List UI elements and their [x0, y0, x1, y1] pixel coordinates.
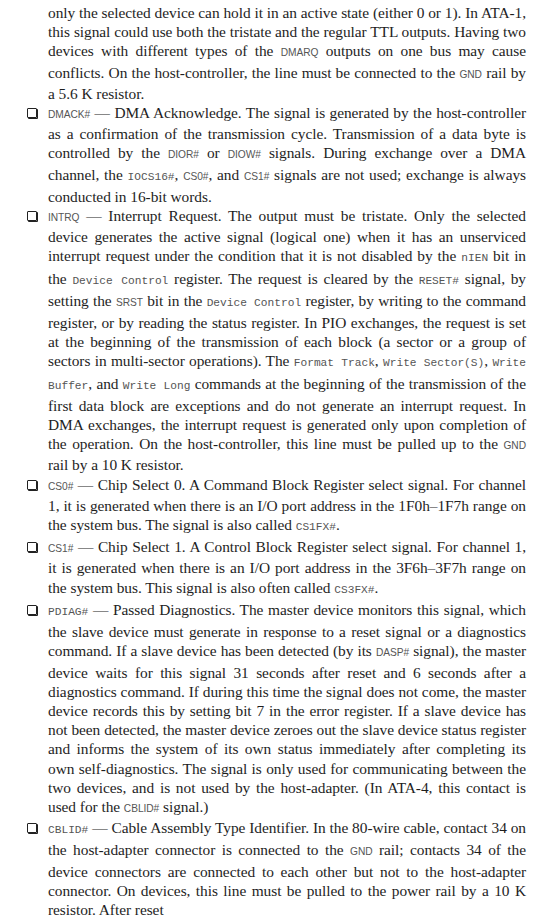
signal-name: CS0#	[48, 481, 73, 492]
signal-code: CS1FX#	[296, 521, 336, 533]
signal-name: DMACK#	[48, 109, 90, 120]
signal-code: GND	[350, 846, 373, 857]
text: rail by a 10 K resistor.	[48, 456, 184, 473]
text: register. The request is cleared by the	[168, 270, 418, 287]
checkbox-bullet-icon	[27, 823, 37, 833]
checkbox-bullet-icon	[27, 605, 37, 615]
signal-code: DIOW#	[228, 149, 261, 160]
list-item-cs0: CS0# — Chip Select 0. A Command Block Re…	[26, 475, 526, 538]
text: — Interrupt Request. The output must be …	[48, 207, 526, 264]
list-item-pdiag: PDIAG# — Passed Diagnostics. The master …	[26, 600, 526, 818]
signal-name: CS1#	[48, 543, 73, 554]
signal-code: CS1#	[244, 171, 269, 182]
document-page: only the selected device can hold it in …	[0, 0, 548, 919]
text: or	[199, 144, 228, 161]
checkbox-bullet-icon	[27, 211, 37, 221]
text: .	[375, 579, 379, 596]
intro-paragraph: only the selected device can hold it in …	[26, 3, 526, 103]
list-item-cs1: CS1# — Chip Select 1. A Control Block Re…	[26, 537, 526, 600]
text: ,	[175, 166, 184, 183]
text: signal.)	[159, 798, 208, 815]
text: .	[336, 516, 340, 533]
signal-code: GND	[459, 69, 482, 80]
signal-code: DMARQ	[281, 47, 319, 58]
signal-code: nIEN	[461, 252, 488, 264]
signal-code: GND	[504, 440, 527, 451]
text: , and	[208, 166, 243, 183]
signal-name: CBLID#	[48, 824, 88, 836]
text: — Chip Select 0. A Command Block Registe…	[48, 476, 526, 533]
signal-code: CS3FX#	[334, 584, 374, 596]
text: bit in the	[143, 292, 207, 309]
signal-name: INTRQ	[48, 212, 79, 223]
checkbox-bullet-icon	[27, 480, 37, 490]
signal-code: CBLID#	[124, 803, 159, 814]
text: , and	[88, 375, 122, 392]
command-name: Format Track	[294, 357, 375, 369]
signal-code: CS0#	[183, 171, 208, 182]
text: signal), the master device waits for thi…	[48, 642, 526, 815]
text: — Chip Select 1. A Control Block Registe…	[48, 538, 526, 595]
signal-name: PDIAG#	[48, 606, 88, 618]
register-name: Device Control	[72, 275, 168, 287]
text: ,	[375, 352, 383, 369]
signal-code: SRST	[116, 297, 143, 308]
command-name: Write Sector(S)	[383, 357, 484, 369]
command-name: Write Long	[123, 380, 191, 392]
signal-code: DASP#	[376, 647, 409, 658]
signal-code: DIOR#	[168, 149, 199, 160]
signal-code: RESET#	[419, 275, 459, 287]
list-item-dmack: DMACK# — DMA Acknowledge. The signal is …	[26, 103, 526, 206]
list-item-cblid: CBLID# — Cable Assembly Type Identifier.…	[26, 818, 526, 919]
register-name: Device Control	[207, 297, 301, 309]
checkbox-bullet-icon	[27, 108, 37, 118]
signal-code: IOCS16#	[128, 171, 175, 183]
list-item-intrq: INTRQ — Interrupt Request. The output mu…	[26, 206, 526, 475]
checkbox-bullet-icon	[27, 542, 37, 552]
